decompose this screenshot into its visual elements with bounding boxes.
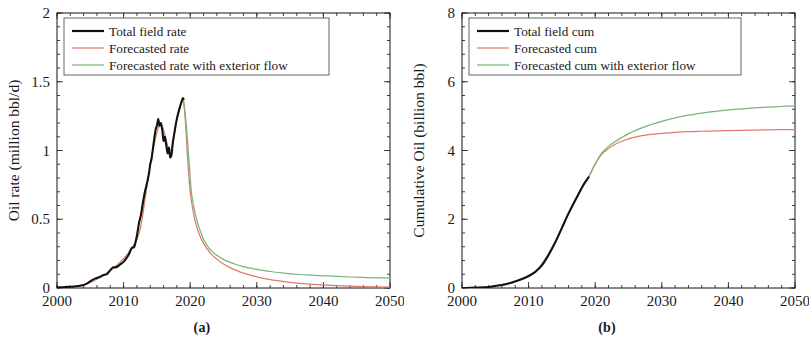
series-group (462, 106, 795, 288)
x-tick-label: 2030 (647, 293, 677, 309)
series-line (57, 98, 184, 287)
legend: Total field rateForecasted rateForecaste… (64, 18, 329, 75)
series-line (489, 130, 795, 287)
series-line (77, 100, 390, 287)
y-tick-label: 1 (43, 143, 51, 159)
x-tick-label: 2010 (109, 293, 139, 309)
x-tick-label: 2050 (780, 293, 809, 309)
x-tick-label: 2020 (175, 293, 205, 309)
panel-b-caption: (b) (405, 320, 809, 336)
y-tick-label: 8 (448, 5, 456, 21)
x-tick-label: 2040 (308, 293, 338, 309)
series-line (184, 101, 390, 278)
panel-a-caption: (a) (0, 320, 404, 336)
legend-label: Forecasted cum with exterior flow (514, 58, 696, 73)
x-tick-label: 2040 (713, 293, 743, 309)
legend-label: Forecasted rate with exterior flow (109, 58, 288, 73)
series-group (57, 98, 390, 287)
x-tick-label: 2020 (580, 293, 610, 309)
y-tick-label: 6 (448, 74, 456, 90)
legend-label: Forecasted rate (109, 41, 189, 56)
legend-label: Forecasted cum (514, 41, 598, 56)
y-tick-label: 4 (448, 143, 456, 159)
y-tick-label: 0 (448, 280, 456, 296)
panel-b: 20002010202020302040205002468Cumulative … (405, 0, 809, 338)
legend-label: Total field rate (109, 24, 187, 39)
panel-a: 20002010202020302040205000.511.52Oil rat… (0, 0, 404, 338)
y-axis-title: Cumulative Oil (billion bbl) (410, 63, 428, 237)
series-line (462, 177, 589, 288)
y-tick-label: 0.5 (31, 211, 50, 227)
x-tick-label: 2050 (375, 293, 404, 309)
x-tick-label: 2030 (242, 293, 272, 309)
chart-b: 20002010202020302040205002468Cumulative … (405, 0, 809, 338)
y-axis-title: Oil rate (million bbl/d) (5, 80, 23, 222)
chart-a: 20002010202020302040205000.511.52Oil rat… (0, 0, 404, 338)
y-tick-label: 2 (43, 5, 51, 21)
y-tick-label: 1.5 (31, 74, 50, 90)
figure-container: 20002010202020302040205000.511.52Oil rat… (0, 0, 809, 338)
legend: Total field cumForecasted cumForecasted … (469, 18, 741, 75)
x-tick-label: 2010 (514, 293, 544, 309)
legend-label: Total field cum (514, 24, 595, 39)
y-tick-label: 2 (448, 211, 456, 227)
y-tick-label: 0 (43, 280, 51, 296)
